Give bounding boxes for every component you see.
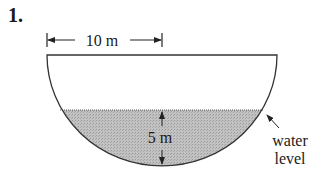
width-label: 10 m xyxy=(86,32,119,49)
water-level-label-line1: water xyxy=(272,132,308,149)
depth-label: 5 m xyxy=(148,129,173,146)
water-level-label-line2: level xyxy=(274,150,306,167)
water-level-pointer-arrow xyxy=(267,115,279,128)
tank-diagram: 10 m 5 m water level xyxy=(0,0,328,180)
